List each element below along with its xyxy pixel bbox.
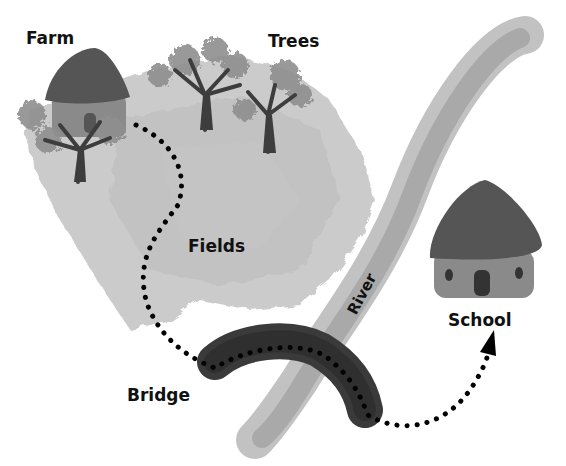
route-arrowhead-icon bbox=[480, 330, 496, 356]
label-trees: Trees bbox=[268, 31, 319, 51]
label-school: School bbox=[448, 310, 512, 330]
label-fields: Fields bbox=[188, 236, 245, 256]
school-house bbox=[430, 180, 542, 298]
label-bridge: Bridge bbox=[127, 385, 190, 405]
map-canvas: Farm Trees Fields River Bridge School bbox=[0, 0, 566, 466]
label-farm: Farm bbox=[26, 28, 74, 48]
map-illustration bbox=[0, 0, 566, 466]
